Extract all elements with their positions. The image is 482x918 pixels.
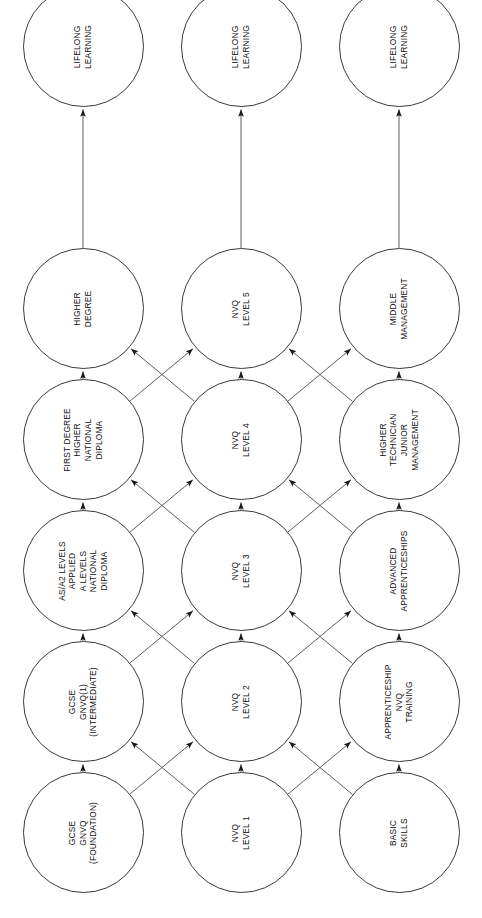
node-nvq-level-2[interactable]: NVQ LEVEL 2 [181, 642, 302, 763]
rotated-diagram-stage: GCSE GNVQ (FOUNDATION) GCSE GNVQ(1) (INT… [0, 0, 482, 918]
node-label: BASIC SKILLS [388, 812, 409, 853]
edge-diagonal-up-c0-12 [289, 742, 352, 794]
node-as-a2-levels[interactable]: AS/A2 LEVELS APPLIED A LEVELS NATIONAL D… [23, 511, 144, 632]
node-nvq-level-5[interactable]: NVQ LEVEL 5 [181, 249, 302, 370]
node-label: LIFELONG LEARNING [388, 19, 409, 75]
node-label: LIFELONG LEARNING [230, 19, 251, 75]
node-label: ADVANCED APPRENTICESHIPS [388, 525, 409, 618]
node-label: NVQ LEVEL 4 [230, 417, 251, 463]
edge-diagonal-up-c2-01 [131, 480, 194, 532]
node-apprenticeship-nvq-training[interactable]: APPRENTICESHIP NVQ TRAINING [339, 642, 460, 763]
node-label: NVQ LEVEL 1 [230, 810, 251, 856]
edge-diagonal-down-c1-12 [288, 611, 351, 663]
edge-diagonal-down-c3-12 [288, 349, 351, 401]
edge-diagonal-down-c0-12 [288, 742, 351, 794]
node-gcse-gnvq-foundation[interactable]: GCSE GNVQ (FOUNDATION) [23, 773, 144, 894]
edge-diagonal-up-c3-12 [289, 349, 352, 401]
node-label: APPRENTICESHIP NVQ TRAINING [383, 658, 415, 745]
node-nvq-level-1[interactable]: NVQ LEVEL 1 [181, 773, 302, 894]
node-label: FIRST DEGREE HIGHER NATIONAL DIPLOMA [62, 402, 104, 478]
node-nvq-level-4[interactable]: NVQ LEVEL 4 [181, 380, 302, 501]
node-gcse-gnvq-intermediate[interactable]: GCSE GNVQ(1) (INTERMEDIATE) [23, 642, 144, 763]
node-middle-management[interactable]: MIDDLE MANAGEMENT [339, 249, 460, 370]
edge-diagonal-down-c2-01 [130, 480, 193, 532]
edge-diagonal-down-c3-01 [130, 349, 193, 401]
node-higher-technician-junior-management[interactable]: HIGHER TECHNICIAN JUNIOR MANAGEMENT [339, 380, 460, 501]
node-label: HIGHER TECHNICIAN JUNIOR MANAGEMENT [378, 403, 420, 477]
edge-diagonal-down-c1-01 [130, 611, 193, 663]
edge-diagonal-down-c2-12 [288, 480, 351, 532]
node-label: NVQ LEVEL 2 [230, 679, 251, 725]
edge-diagonal-down-c0-01 [130, 742, 193, 794]
progression-diagram-canvas: GCSE GNVQ (FOUNDATION) GCSE GNVQ(1) (INT… [0, 0, 482, 918]
node-higher-degree[interactable]: HIGHER DEGREE [23, 249, 144, 370]
node-label: LIFELONG LEARNING [72, 19, 93, 75]
node-nvq-level-3[interactable]: NVQ LEVEL 3 [181, 511, 302, 632]
node-label: GCSE GNVQ(1) (INTERMEDIATE) [67, 661, 99, 742]
node-label: GCSE GNVQ (FOUNDATION) [67, 796, 99, 870]
node-label: MIDDLE MANAGEMENT [388, 272, 409, 346]
edge-diagonal-up-c3-01 [131, 349, 194, 401]
node-label: AS/A2 LEVELS APPLIED A LEVELS NATIONAL D… [57, 535, 110, 607]
node-basic-skills[interactable]: BASIC SKILLS [339, 773, 460, 894]
node-label: NVQ LEVEL 3 [230, 548, 251, 594]
edge-diagonal-up-c1-12 [289, 611, 352, 663]
edge-diagonal-up-c2-12 [289, 480, 352, 532]
edge-diagonal-up-c0-01 [131, 742, 194, 794]
node-label: NVQ LEVEL 5 [230, 286, 251, 332]
edge-diagonal-up-c1-01 [131, 611, 194, 663]
node-label: HIGHER DEGREE [72, 285, 93, 333]
node-first-degree-hnd[interactable]: FIRST DEGREE HIGHER NATIONAL DIPLOMA [23, 380, 144, 501]
node-advanced-apprenticeships[interactable]: ADVANCED APPRENTICESHIPS [339, 511, 460, 632]
